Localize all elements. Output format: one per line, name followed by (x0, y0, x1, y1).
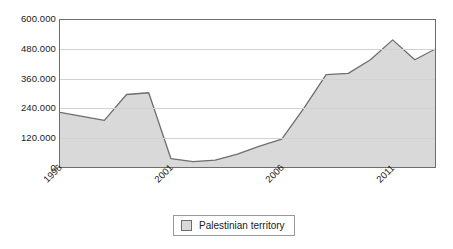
gridline-120000 (60, 138, 435, 139)
y-tick-label-240000: 240.000 (0, 103, 56, 113)
area-fill-path (60, 40, 436, 168)
chart-legend: Palestinian territory (173, 215, 295, 236)
gridline-240000 (60, 108, 435, 109)
y-tick-label-600000: 600.000 (0, 14, 56, 24)
plot-area (59, 19, 436, 168)
y-tick-label-120000: 120.000 (0, 133, 56, 143)
gridline-360000 (60, 79, 435, 80)
y-axis: 600.000 480.000 360.000 240.000 120.000 … (0, 0, 56, 200)
y-tick-label-480000: 480.000 (0, 44, 56, 54)
legend-swatch-palestinian-territory (181, 220, 192, 231)
series-palestinian-territory (60, 20, 436, 168)
gridline-480000 (60, 49, 435, 50)
area-chart: 600.000 480.000 360.000 240.000 120.000 … (0, 0, 453, 249)
y-tick-label-360000: 360.000 (0, 74, 56, 84)
y-tick-label-0: 0 (0, 163, 56, 173)
legend-label-palestinian-territory: Palestinian territory (199, 220, 285, 231)
